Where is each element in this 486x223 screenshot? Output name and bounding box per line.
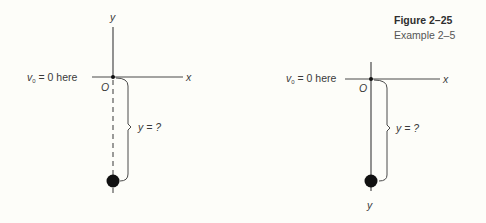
left-distance-brace xyxy=(116,78,131,181)
right-distance-label: y = ? xyxy=(395,122,419,134)
right-origin-label: O xyxy=(359,82,367,94)
example-reference: Example 2–5 xyxy=(394,28,455,43)
right-y-axis-label: y xyxy=(366,199,373,211)
figure-number: Figure 2–25 xyxy=(394,13,455,28)
left-y-axis-label: y xyxy=(109,11,116,23)
right-initial-condition-label: v0 = 0 here xyxy=(286,72,336,85)
right-falling-ball xyxy=(365,175,378,188)
left-origin-label: O xyxy=(101,81,109,93)
right-diagram: x v0 = 0 here O y = ? y xyxy=(286,62,449,211)
left-origin-dot xyxy=(111,75,115,79)
right-x-axis-label: x xyxy=(442,73,449,85)
right-origin-dot xyxy=(369,77,373,81)
left-initial-condition-label: v0 = 0 here xyxy=(27,71,77,84)
left-x-axis-label: x xyxy=(185,71,192,83)
left-distance-label: y = ? xyxy=(137,121,161,133)
figure-caption: Figure 2–25 Example 2–5 xyxy=(394,13,455,43)
left-diagram: y x v0 = 0 here O y = ? xyxy=(27,11,192,196)
right-distance-brace xyxy=(374,80,390,181)
left-falling-ball xyxy=(107,175,120,188)
